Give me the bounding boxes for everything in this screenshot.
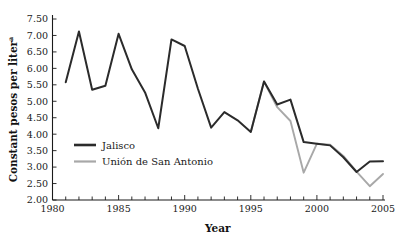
y-tick-label: 4.50 [27, 112, 48, 123]
legend-label: Unión de San Antonio [102, 156, 213, 167]
y-tick-label: 7.50 [27, 13, 48, 24]
line-chart: 2.002.503.003.504.004.505.005.506.006.50… [0, 0, 407, 243]
y-tick-label: 5.50 [27, 79, 48, 90]
x-tick-label: 1990 [173, 203, 197, 214]
y-tick-label: 7.00 [27, 30, 48, 41]
x-tick-label: 1995 [239, 203, 263, 214]
x-tick-label: 2005 [371, 203, 395, 214]
x-tick-label: 2000 [305, 203, 329, 214]
legend-label: Jalisco [101, 140, 135, 151]
x-axis-title: Year [204, 222, 231, 234]
series-line-jalisco [66, 32, 383, 173]
y-axis-title: Constant pesos per litera [7, 36, 19, 182]
y-tick-label: 6.00 [27, 63, 48, 74]
chart-container: 2.002.503.003.504.004.505.005.506.006.50… [0, 0, 407, 243]
y-tick-label: 3.00 [27, 161, 48, 172]
x-tick-label: 1985 [107, 203, 131, 214]
series-line-uni-n-de-san-antonio [251, 82, 383, 187]
chart-legend: JaliscoUnión de San Antonio [74, 140, 213, 168]
y-tick-label: 2.50 [27, 178, 48, 189]
y-tick-label: 3.50 [27, 145, 48, 156]
y-tick-label: 4.00 [27, 129, 48, 140]
y-tick-label: 5.00 [27, 96, 48, 107]
x-tick-label: 1980 [40, 203, 64, 214]
y-tick-label: 6.50 [27, 46, 48, 57]
x-axis-ticks: 198019851990199520002005 [40, 195, 395, 214]
axis-lines [53, 15, 386, 200]
